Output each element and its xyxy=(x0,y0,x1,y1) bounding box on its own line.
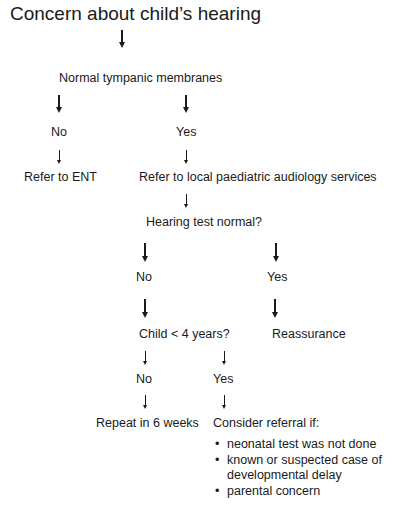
node-tympanic-no: No xyxy=(51,125,67,140)
node-reassurance: Reassurance xyxy=(272,327,346,342)
node-consider: Consider referral if: xyxy=(213,416,319,431)
node-hearing-yes: Yes xyxy=(267,270,287,285)
flowchart-title: Concern about child’s hearing xyxy=(10,3,261,25)
node-age-no: No xyxy=(136,372,152,387)
node-refer-ent: Refer to ENT xyxy=(24,170,97,185)
node-refer-audiology: Refer to local paediatric audiology serv… xyxy=(139,170,377,185)
criteria-item-continuation: developmental delay xyxy=(215,468,382,484)
node-tympanic: Normal tympanic membranes xyxy=(59,71,222,86)
consider-criteria-list: neonatal test was not done known or susp… xyxy=(215,437,382,499)
node-hearing-no: No xyxy=(136,270,152,285)
criteria-item: parental concern xyxy=(215,484,382,500)
node-age-yes: Yes xyxy=(213,372,233,387)
criteria-item: neonatal test was not done xyxy=(215,437,382,453)
node-repeat: Repeat in 6 weeks xyxy=(96,416,199,431)
node-hearing-test: Hearing test normal? xyxy=(146,215,262,230)
node-tympanic-yes: Yes xyxy=(176,125,196,140)
criteria-item: known or suspected case of xyxy=(215,453,382,469)
node-child-age: Child < 4 years? xyxy=(139,327,230,342)
